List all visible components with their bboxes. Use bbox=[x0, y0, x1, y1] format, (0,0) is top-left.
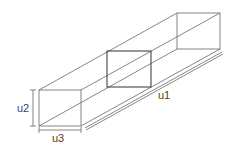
label-u3: u3 bbox=[52, 133, 64, 144]
cross-section bbox=[107, 51, 151, 87]
label-u2: u2 bbox=[17, 103, 29, 114]
diagram-canvas: u1 u2 u3 bbox=[0, 0, 235, 155]
box-diagram bbox=[0, 0, 235, 155]
front-face bbox=[39, 90, 81, 126]
label-u1: u1 bbox=[158, 90, 170, 101]
back-face bbox=[177, 13, 220, 49]
dim-u1-line bbox=[85, 52, 222, 128]
